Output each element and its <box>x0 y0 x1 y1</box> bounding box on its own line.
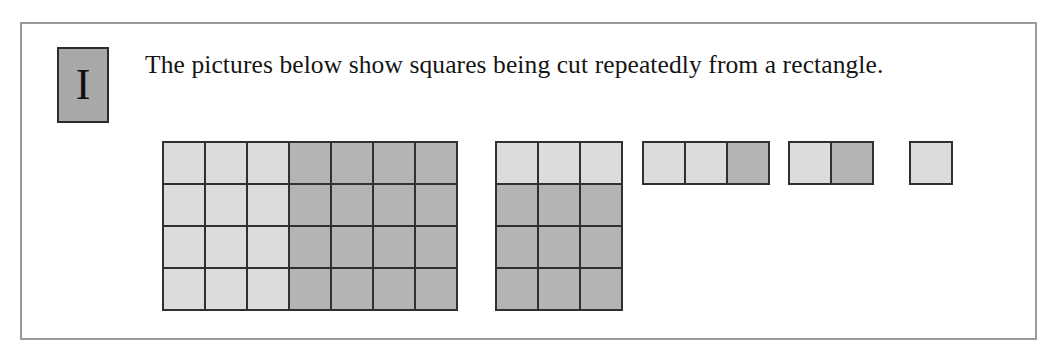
grid-cell <box>728 143 768 183</box>
grid-cell <box>374 185 414 225</box>
grid-cell <box>206 269 246 309</box>
grid-cell <box>248 185 288 225</box>
grid-cell <box>164 269 204 309</box>
grid-cell <box>911 143 951 183</box>
grid-cell <box>497 185 537 225</box>
diagram-square-1x1 <box>909 141 953 185</box>
grid-cell <box>416 185 456 225</box>
grid-cell <box>332 269 372 309</box>
grid-cell <box>497 143 537 183</box>
grid-cell <box>164 143 204 183</box>
grid-cell <box>497 227 537 267</box>
grid-cell <box>644 143 684 183</box>
grid-cell <box>539 269 579 309</box>
grid-cell <box>832 143 872 183</box>
grid-cell <box>497 269 537 309</box>
grid-cell <box>290 227 330 267</box>
grid-cell <box>581 227 621 267</box>
grid-cell <box>248 227 288 267</box>
grid-cell <box>539 185 579 225</box>
diagram-rectangle-2x1 <box>788 141 874 185</box>
grid-cell <box>290 269 330 309</box>
grid-cell <box>206 185 246 225</box>
grid-cell <box>790 143 830 183</box>
grid-cell <box>206 227 246 267</box>
item-number-marker: I <box>57 47 109 123</box>
grid-cell <box>332 143 372 183</box>
grid-cell <box>374 269 414 309</box>
grid-cell <box>581 185 621 225</box>
grid-cell <box>164 227 204 267</box>
grid-cell <box>332 185 372 225</box>
grid-cell <box>416 143 456 183</box>
grid-cell <box>416 227 456 267</box>
diagram-rectangle-3x4 <box>495 141 623 311</box>
grid-cell <box>248 269 288 309</box>
grid-cell <box>539 227 579 267</box>
diagram-rectangle-7x4 <box>162 141 458 311</box>
grid-cell <box>686 143 726 183</box>
grid-cell <box>290 143 330 183</box>
grid-cell <box>539 143 579 183</box>
grid-cell <box>332 227 372 267</box>
figure-panel: I The pictures below show squares being … <box>20 22 1037 340</box>
grid-cell <box>290 185 330 225</box>
grid-cell <box>374 143 414 183</box>
question-header: I The pictures below show squares being … <box>57 47 1015 123</box>
prompt-text: The pictures below show squares being cu… <box>145 49 935 80</box>
grid-cell <box>206 143 246 183</box>
grid-cell <box>581 143 621 183</box>
grid-cell <box>164 185 204 225</box>
diagram-rectangle-3x1 <box>642 141 770 185</box>
grid-cell <box>581 269 621 309</box>
grid-cell <box>248 143 288 183</box>
grid-cell <box>374 227 414 267</box>
grid-cell <box>416 269 456 309</box>
